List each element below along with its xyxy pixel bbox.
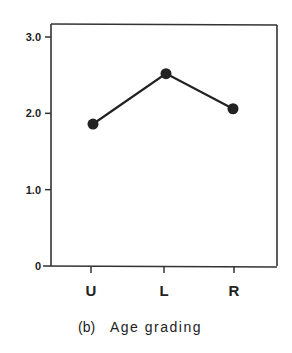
x-tick-label: L	[159, 282, 168, 299]
x-tick-label: U	[86, 282, 97, 299]
y-axis: 01.02.03.0	[26, 31, 51, 272]
series-age-grading	[88, 68, 239, 129]
data-point	[228, 103, 239, 114]
y-tick-label: 0	[35, 260, 41, 272]
y-tick-label: 3.0	[26, 31, 41, 43]
chart-frame	[43, 24, 277, 267]
caption-text: Age grading	[110, 319, 202, 335]
chart: 01.02.03.0 ULR (b) Age grading	[0, 0, 292, 353]
y-tick-label: 1.0	[26, 184, 41, 196]
caption-label: (b)	[78, 319, 95, 335]
x-axis-line	[43, 266, 277, 267]
y-tick-label: 2.0	[26, 107, 41, 119]
data-point	[88, 119, 99, 130]
x-tick-label: R	[229, 282, 240, 299]
data-point	[161, 68, 172, 79]
series-line	[93, 74, 233, 124]
x-axis: ULR	[86, 266, 240, 299]
frame-top	[51, 24, 277, 25]
